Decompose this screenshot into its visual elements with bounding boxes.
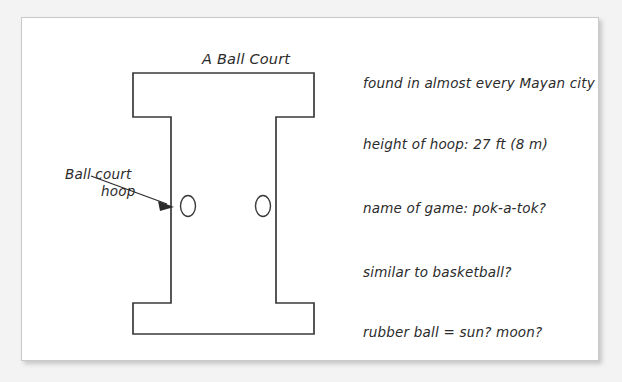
note-item: similar to basketball? [363, 264, 512, 280]
note-paper: A Ball Court Ball court hoop found in al… [21, 17, 599, 361]
note-item: height of hoop: 27 ft (8 m) [363, 136, 548, 152]
callout-label-line2: hoop [65, 183, 175, 200]
note-item: rubber ball = sun? moon? [363, 324, 542, 340]
note-item: name of game: pok-a-tok? [363, 200, 546, 216]
screenshot-root: A Ball Court Ball court hoop found in al… [0, 0, 622, 382]
paper-inner: A Ball Court Ball court hoop found in al… [22, 18, 598, 360]
right-hoop-icon [256, 196, 271, 217]
note-item: found in almost every Mayan city [363, 75, 595, 91]
left-hoop-icon [181, 196, 196, 217]
callout-label: Ball court hoop [65, 166, 175, 200]
callout-label-line1: Ball court [65, 166, 131, 182]
